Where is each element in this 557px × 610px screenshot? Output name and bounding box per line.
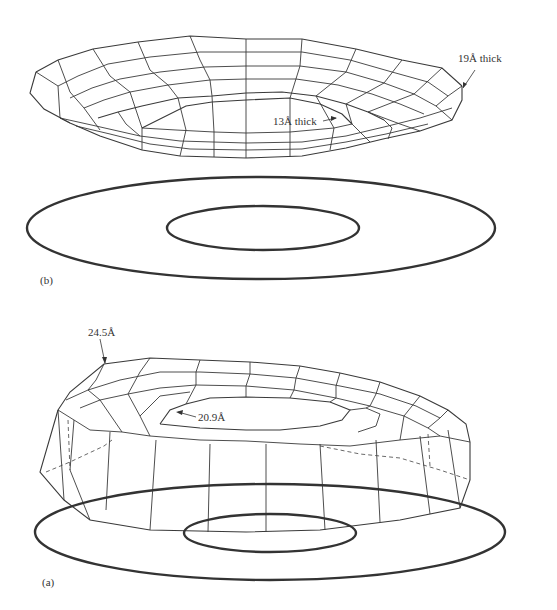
annotation-20-9a: 20.9Å [198,411,225,423]
panel-a-outer-ellipse [35,484,505,580]
panel-label-b: (b) [40,274,53,286]
annotation-24-5a: 24.5Å [88,326,115,338]
annotation-19a-thick: 19Å thick [458,52,502,64]
panel-a-inner-ellipse [184,514,356,552]
panel-a-mesh-surface [40,358,470,532]
panel-label-a: (a) [42,576,54,588]
panel-a-drawing [0,0,557,610]
arrowhead-icon [176,410,183,415]
annotation-13a-thick: 13Å thick [273,115,317,127]
arrowhead-icon [102,357,107,364]
